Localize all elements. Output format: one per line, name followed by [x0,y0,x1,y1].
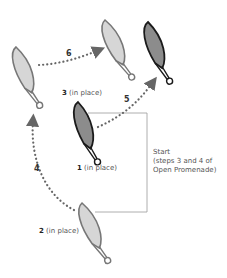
piece-2-text: (in place) [46,227,79,235]
arrow-5-label: 5 [124,95,130,104]
piece-1-label: 1 (in place) [77,164,117,173]
piece-3-label: 3 (in place) [62,89,102,98]
piece-2-number: 2 [39,227,44,235]
arrow-5 [98,82,153,127]
arrow-6-label: 6 [66,49,72,58]
arrow-4-label: 4 [34,164,40,173]
piece-1-number: 1 [77,164,82,172]
dance-steps-diagram [0,0,227,278]
piece-center-1 [72,100,101,167]
start-note-line1: Start [153,148,216,157]
piece-3-text: (in place) [69,89,102,97]
piece-1-text: (in place) [84,164,117,172]
start-note-line3: Open Promenade) [153,166,216,175]
start-note: Start (steps 3 and 4 of Open Promenade) [153,148,216,175]
piece-3-number: 3 [62,89,67,97]
piece-top-right [142,20,173,87]
piece-bottom-2 [76,200,111,268]
piece-top-left [10,44,43,112]
piece-2-label: 2 (in place) [39,227,79,236]
start-note-line2: (steps 3 and 4 of [153,157,216,166]
piece-top-middle [99,16,135,84]
